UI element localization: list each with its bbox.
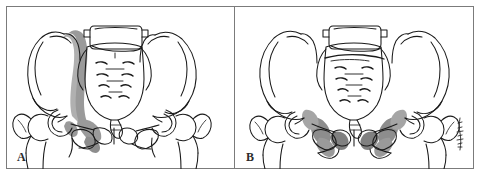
- l5-superior-edge: [95, 28, 137, 30]
- right-iliac-crest-inner: [401, 36, 422, 44]
- right-iliac-inner-line: [431, 42, 440, 97]
- right-iliac-crest-inner: [148, 36, 169, 44]
- left-iliac-crest-inner: [287, 36, 308, 44]
- left-iliac-inner-line: [35, 42, 43, 95]
- left-femoral-shaft-medial: [43, 142, 46, 169]
- shade-left-acetabular-rim: [302, 110, 319, 130]
- right-trochanter-detail: [198, 120, 206, 132]
- right-asis: [417, 101, 442, 114]
- left-femoral-shaft: [263, 155, 265, 169]
- left-ischium: [69, 138, 72, 157]
- left-iliac-crest: [301, 34, 317, 63]
- panel-a: A: [6, 6, 234, 169]
- right-iliac-crest: [392, 34, 408, 63]
- left-trochanter-detail: [18, 120, 26, 132]
- transverse-sacral-fracture-line-2: [331, 60, 369, 62]
- left-femoral-shaft: [26, 153, 28, 169]
- l5-transverse-process-right: [381, 30, 387, 37]
- left-iliac-inner-line: [269, 42, 278, 97]
- sacrum-outline: [85, 43, 144, 120]
- right-femoral-shaft: [444, 155, 446, 169]
- right-ischium: [152, 138, 155, 157]
- left-iliac-wing-outline: [260, 31, 304, 119]
- left-femoral-shaft-medial: [280, 144, 283, 169]
- l5-superior-edge: [334, 28, 376, 30]
- shade-right-acetabular-rim: [390, 110, 407, 130]
- right-femoral-shaft-medial: [426, 144, 429, 169]
- sacral-foramina: [96, 62, 134, 98]
- right-iliac-inner-line: [178, 42, 187, 96]
- right-iliac-wing-outline: [405, 31, 449, 119]
- transverse-sacral-fracture-line: [325, 55, 384, 59]
- left-asis: [267, 101, 292, 114]
- right-trochanter-detail: [446, 122, 454, 134]
- panel-a-illustration: [6, 6, 234, 169]
- pelvic-fracture-figure: A: [0, 0, 482, 177]
- artist-signature-icon: [456, 117, 464, 151]
- panel-b-illustration: [235, 6, 474, 169]
- right-iliac-wing-outline: [153, 32, 196, 117]
- panel-b-label: B: [246, 151, 254, 163]
- left-trochanter-detail: [255, 122, 263, 134]
- panel-divider: [234, 6, 235, 169]
- panel-b: B: [235, 6, 474, 169]
- right-femoral-shaft: [196, 153, 198, 169]
- left-iliac-crest-inner: [50, 36, 71, 43]
- l5-transverse-process-left: [84, 30, 90, 37]
- sacral-foramina: [335, 67, 373, 102]
- l5-transverse-process-right: [142, 30, 148, 37]
- l5-transverse-process-left: [323, 30, 329, 37]
- l5-vertebra-body: [90, 26, 142, 49]
- l5-vertebra-body: [329, 26, 381, 49]
- left-iliac-wing-outline: [28, 32, 67, 117]
- panel-a-label: A: [17, 151, 26, 163]
- right-femoral-shaft-medial: [178, 142, 181, 169]
- left-asis: [33, 98, 57, 111]
